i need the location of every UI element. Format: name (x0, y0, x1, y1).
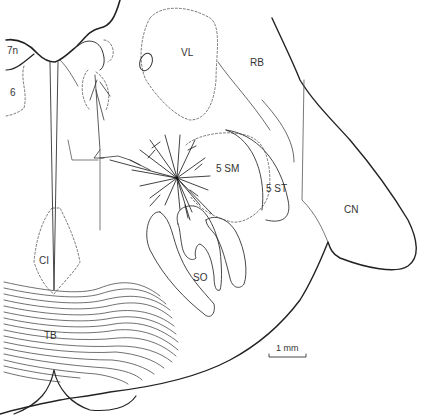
label-6: 6 (10, 88, 16, 98)
label-5-st: 5 ST (266, 184, 287, 194)
label-7n: 7n (7, 46, 18, 56)
label-5-sm: 5 SM (216, 164, 239, 174)
label-rb: RB (250, 58, 264, 68)
scale-bar-label: 1 mm (276, 344, 299, 353)
scale-bar (269, 354, 306, 357)
label-vl: VL (181, 48, 193, 58)
label-tb: TB (44, 331, 57, 341)
label-ci: CI (39, 256, 49, 266)
label-so: SO (193, 273, 207, 283)
brainstem-section-figure: 7n 6 VL RB 5 SM 5 ST CN CI SO TB 1 mm (0, 0, 422, 415)
section-outline-drawing (0, 0, 422, 415)
label-cn: CN (344, 205, 358, 215)
